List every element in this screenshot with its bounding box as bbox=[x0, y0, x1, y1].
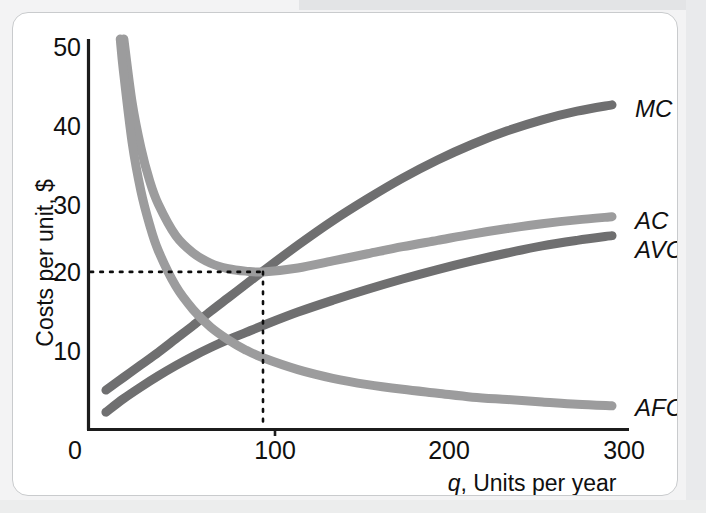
x-tick-label-0: 0 bbox=[68, 436, 82, 464]
curve-group bbox=[106, 39, 612, 412]
x-axis-title-rest: , Units per year bbox=[460, 470, 616, 495]
cost-curves-chart: Costs per unit, $ 50 40 30 20 10 0 100 2… bbox=[13, 13, 677, 495]
curve-label-avc: AVC bbox=[633, 236, 677, 263]
figure-card: Costs per unit, $ 50 40 30 20 10 0 100 2… bbox=[12, 12, 678, 496]
y-tick-label-10: 10 bbox=[53, 337, 81, 365]
y-tick-label-40: 40 bbox=[53, 112, 81, 140]
curve-labels: MC AC AVC AFC bbox=[633, 95, 677, 421]
y-tick-label-50: 50 bbox=[53, 33, 81, 61]
x-tick-label-200: 200 bbox=[428, 436, 470, 464]
curve-label-mc: MC bbox=[635, 95, 673, 122]
x-tick-label-300: 300 bbox=[603, 436, 645, 464]
x-tick-labels: 0 100 200 300 bbox=[68, 436, 645, 464]
curve-label-ac: AC bbox=[633, 207, 669, 234]
scan-band-right bbox=[686, 0, 706, 513]
scan-band-top bbox=[299, 0, 706, 10]
x-tick-label-100: 100 bbox=[254, 436, 296, 464]
x-axis-title: q, Units per year bbox=[448, 470, 617, 495]
y-tick-label-30: 30 bbox=[53, 191, 81, 219]
curve-ac bbox=[124, 39, 612, 272]
x-axis-title-variable: q bbox=[448, 470, 461, 495]
scan-band-bottom bbox=[0, 500, 706, 513]
curve-label-afc: AFC bbox=[633, 394, 677, 421]
y-tick-label-20: 20 bbox=[53, 258, 81, 286]
